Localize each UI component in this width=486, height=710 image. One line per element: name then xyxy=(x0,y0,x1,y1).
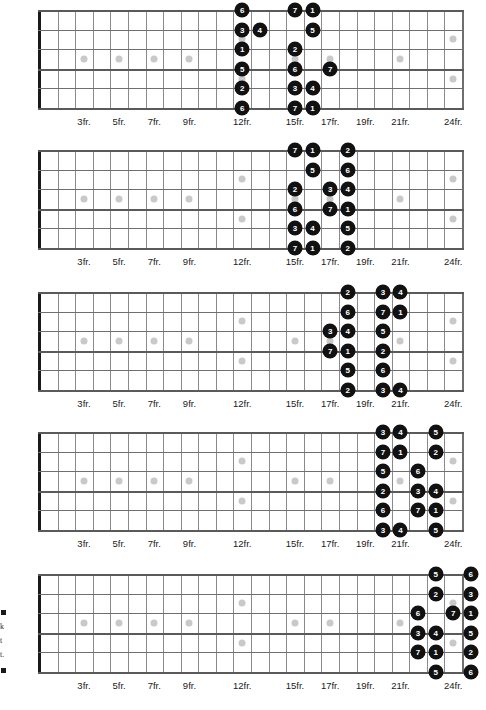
note-marker[interactable]: 1 xyxy=(393,444,408,459)
note-marker[interactable]: 2 xyxy=(428,586,443,601)
note-marker[interactable]: 1 xyxy=(305,3,320,18)
string-line-accent-3 xyxy=(38,491,464,493)
note-marker[interactable]: 7 xyxy=(446,606,461,621)
fret-line-4 xyxy=(110,10,111,108)
note-marker[interactable]: 6 xyxy=(411,606,426,621)
note-marker[interactable]: 3 xyxy=(375,383,390,398)
note-marker[interactable]: 2 xyxy=(287,42,302,57)
note-marker[interactable]: 7 xyxy=(375,304,390,319)
note-marker[interactable]: 4 xyxy=(305,81,320,96)
note-marker[interactable]: 3 xyxy=(287,81,302,96)
note-marker[interactable]: 1 xyxy=(428,503,443,518)
note-marker[interactable]: 4 xyxy=(393,285,408,300)
fret-line-19 xyxy=(374,10,375,108)
note-marker[interactable]: 1 xyxy=(340,201,355,216)
note-marker[interactable]: 2 xyxy=(340,285,355,300)
note-marker[interactable]: 5 xyxy=(463,625,478,640)
note-marker[interactable]: 3 xyxy=(287,221,302,236)
fret-line-9 xyxy=(198,292,199,390)
note-marker[interactable]: 5 xyxy=(428,567,443,582)
note-marker[interactable]: 2 xyxy=(287,182,302,197)
note-marker[interactable]: 5 xyxy=(305,162,320,177)
note-marker[interactable]: 2 xyxy=(463,645,478,660)
note-marker[interactable]: 7 xyxy=(323,343,338,358)
note-marker[interactable]: 3 xyxy=(323,324,338,339)
note-marker[interactable]: 5 xyxy=(305,22,320,37)
note-marker[interactable]: 6 xyxy=(463,567,478,582)
fret-inlay-double-12-2 xyxy=(239,215,246,222)
note-marker[interactable]: 1 xyxy=(305,143,320,158)
string-line-3 xyxy=(38,49,464,50)
note-marker[interactable]: 2 xyxy=(340,241,355,256)
note-marker[interactable]: 6 xyxy=(287,201,302,216)
note-marker[interactable]: 5 xyxy=(375,464,390,479)
note-marker[interactable]: 4 xyxy=(340,182,355,197)
note-marker[interactable]: 5 xyxy=(375,324,390,339)
fret-line-3 xyxy=(93,574,94,672)
fret-line-22 xyxy=(427,150,428,248)
note-marker[interactable]: 3 xyxy=(235,22,250,37)
note-marker[interactable]: 6 xyxy=(375,363,390,378)
note-marker[interactable]: 7 xyxy=(287,241,302,256)
note-marker[interactable]: 3 xyxy=(375,523,390,538)
fret-line-24 xyxy=(462,292,464,390)
note-marker[interactable]: 4 xyxy=(428,625,443,640)
note-marker[interactable]: 6 xyxy=(235,101,250,116)
note-marker[interactable]: 5 xyxy=(428,523,443,538)
note-marker[interactable]: 4 xyxy=(428,483,443,498)
fret-line-2 xyxy=(75,10,76,108)
note-marker[interactable]: 4 xyxy=(305,221,320,236)
note-marker[interactable]: 5 xyxy=(340,221,355,236)
note-marker[interactable]: 1 xyxy=(463,606,478,621)
note-marker[interactable]: 2 xyxy=(235,81,250,96)
note-marker[interactable]: 2 xyxy=(375,343,390,358)
note-marker[interactable]: 7 xyxy=(323,61,338,76)
note-marker[interactable]: 3 xyxy=(323,182,338,197)
note-marker[interactable]: 3 xyxy=(411,625,426,640)
note-marker[interactable]: 5 xyxy=(428,665,443,680)
note-marker[interactable]: 7 xyxy=(411,503,426,518)
note-marker[interactable]: 3 xyxy=(411,483,426,498)
note-marker[interactable]: 5 xyxy=(235,61,250,76)
string-line-3 xyxy=(38,471,464,472)
note-marker[interactable]: 6 xyxy=(375,503,390,518)
fret-inlay-double-24-2 xyxy=(450,639,457,646)
note-marker[interactable]: 4 xyxy=(340,324,355,339)
note-marker[interactable]: 3 xyxy=(463,586,478,601)
string-line-3 xyxy=(38,331,464,332)
note-marker[interactable]: 6 xyxy=(463,665,478,680)
note-marker[interactable]: 7 xyxy=(287,3,302,18)
note-marker[interactable]: 2 xyxy=(428,444,443,459)
note-marker[interactable]: 3 xyxy=(375,425,390,440)
note-marker[interactable]: 1 xyxy=(393,304,408,319)
note-marker[interactable]: 6 xyxy=(340,162,355,177)
note-marker[interactable]: 7 xyxy=(411,645,426,660)
note-marker[interactable]: 1 xyxy=(235,42,250,57)
fret-label-21: 21fr. xyxy=(391,116,410,127)
note-marker[interactable]: 4 xyxy=(393,523,408,538)
note-marker[interactable]: 7 xyxy=(287,101,302,116)
note-marker[interactable]: 6 xyxy=(235,3,250,18)
note-marker[interactable]: 2 xyxy=(375,483,390,498)
note-marker[interactable]: 4 xyxy=(393,425,408,440)
note-marker[interactable]: 6 xyxy=(340,304,355,319)
note-marker[interactable]: 1 xyxy=(428,645,443,660)
note-marker[interactable]: 3 xyxy=(375,285,390,300)
note-marker[interactable]: 7 xyxy=(375,444,390,459)
note-marker[interactable]: 2 xyxy=(340,383,355,398)
fret-line-6 xyxy=(146,574,147,672)
fret-label-9: 9fr. xyxy=(183,116,196,127)
note-marker[interactable]: 1 xyxy=(340,343,355,358)
note-marker[interactable]: 6 xyxy=(411,464,426,479)
note-marker[interactable]: 1 xyxy=(305,241,320,256)
note-marker[interactable]: 4 xyxy=(252,22,267,37)
note-marker[interactable]: 2 xyxy=(340,143,355,158)
note-marker[interactable]: 4 xyxy=(393,383,408,398)
note-marker[interactable]: 7 xyxy=(287,143,302,158)
note-marker[interactable]: 7 xyxy=(323,201,338,216)
note-marker[interactable]: 1 xyxy=(305,101,320,116)
note-marker[interactable]: 6 xyxy=(287,61,302,76)
fret-inlay-21 xyxy=(397,338,404,345)
note-marker[interactable]: 5 xyxy=(340,363,355,378)
note-marker[interactable]: 5 xyxy=(428,425,443,440)
